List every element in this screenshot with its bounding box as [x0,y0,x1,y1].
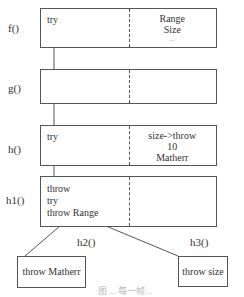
frame-label-h1: h1() [6,194,24,206]
divider [129,70,130,103]
frame-box-g [40,69,217,104]
frame-right-text: size->throw 10 Matherr [129,130,217,163]
divider [129,177,130,226]
child-box-h3: throw size [178,256,228,287]
frame-left-text: throw try throw Range [47,183,98,219]
frame-box-h1: throw try throw Range [40,176,217,227]
frame-box-f: try Range Size ... [40,8,217,48]
child-label-h2: h2() [77,236,95,248]
frame-left-text: try [47,14,58,26]
frame-left-text: try [47,131,58,143]
figure-caption: 图 ... 每一帧... [30,284,220,297]
frame-right-text: Range Size ... [129,13,217,42]
frame-box-h: try size->throw 10 Matherr [40,125,217,166]
child-text: throw Matherr [18,257,85,287]
child-label-h3: h3() [190,236,208,248]
frame-label-h: h() [8,143,21,155]
frame-label-g: g() [8,82,21,94]
child-text: throw size [179,257,227,287]
frame-label-f: f() [8,22,19,34]
